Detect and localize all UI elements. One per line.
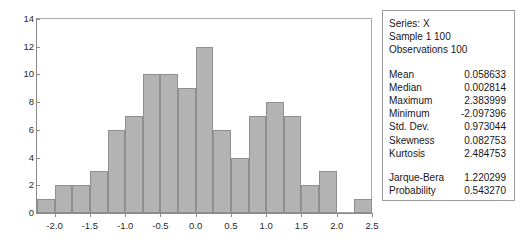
statistic-label: Probability (389, 184, 447, 197)
x-axis-tick-label: -1.0 (105, 221, 145, 231)
x-axis-tick-label: 2.0 (317, 221, 357, 231)
statistic-label: Skewness (389, 134, 447, 147)
histogram-bar (90, 171, 108, 213)
statistic-row: Minimum-2.097396 (389, 107, 510, 120)
y-axis-tick-label: 10 (4, 69, 34, 78)
x-axis-tick-mark (231, 213, 232, 217)
statistics-header-line: Sample 1 100 (389, 30, 514, 43)
y-axis-tick-label: 12 (4, 42, 34, 51)
y-axis-tick-label: 6 (4, 125, 34, 134)
statistic-value: 0.058633 (447, 68, 510, 81)
statistic-value: 1.220299 (447, 171, 510, 184)
x-axis-tick-label: 0.5 (211, 221, 251, 231)
statistic-label: Mean (389, 68, 447, 81)
histogram-bar (319, 171, 337, 213)
statistic-label: Maximum (389, 94, 447, 107)
y-axis-tick-label: 4 (4, 153, 34, 162)
statistics-header-line: Observations 100 (389, 43, 514, 56)
x-axis-tick-label: 2.5 (352, 221, 392, 231)
statistic-value: 0.082753 (447, 134, 510, 147)
statistic-label: Median (389, 81, 447, 94)
y-axis-tick-labels: 02468101214 (0, 0, 34, 245)
histogram-bar (266, 102, 284, 213)
statistic-value: 2.383999 (447, 94, 510, 107)
statistics-header-line: Series: X (389, 17, 514, 30)
statistic-value: 0.973044 (447, 120, 510, 133)
histogram-bar (55, 185, 73, 213)
statistic-label: Std. Dev. (389, 120, 447, 133)
histogram-bar (354, 199, 372, 213)
histogram-bar (196, 47, 214, 213)
histogram-bar (249, 116, 267, 213)
statistic-value: 0.543270 (447, 184, 510, 197)
statistic-row: Median0.002814 (389, 81, 510, 94)
x-axis-tick-mark (160, 213, 161, 217)
x-axis-tick-mark (301, 213, 302, 217)
statistics-panel: Series: XSample 1 100Observations 100 Me… (382, 10, 515, 201)
y-axis-tick-label: 14 (4, 14, 34, 23)
x-axis-tick-label: 1.5 (281, 221, 321, 231)
spacer (389, 57, 514, 68)
y-axis-tick-mark (36, 213, 40, 214)
normality-test-row: Jarque-Bera1.220299 (389, 171, 510, 184)
x-axis-tick-mark (55, 213, 56, 217)
histogram-bar (301, 185, 319, 213)
normality-test-row: Probability0.543270 (389, 184, 510, 197)
statistic-row: Skewness0.082753 (389, 134, 510, 147)
histogram-bar (125, 116, 143, 213)
statistics-header: Series: XSample 1 100Observations 100 (389, 17, 514, 57)
x-axis-line (36, 213, 373, 214)
statistic-row: Std. Dev.0.973044 (389, 120, 510, 133)
statistic-label: Jarque-Bera (389, 171, 447, 184)
x-axis-tick-label: 1.0 (246, 221, 286, 231)
histogram-bar (37, 199, 55, 213)
normality-test-rows: Jarque-Bera1.220299Probability0.543270 (389, 171, 514, 197)
statistic-value: 2.484753 (447, 147, 510, 160)
histogram-bar (72, 185, 90, 213)
histogram-chart: 02468101214 -2.0-1.5-1.0-0.50.00.51.01.5… (0, 0, 376, 245)
histogram-bar (231, 158, 249, 213)
x-axis-tick-label: -1.5 (70, 221, 110, 231)
x-axis-tick-mark (90, 213, 91, 217)
statistic-label: Minimum (389, 107, 447, 120)
statistics-rows: Mean0.058633Median0.002814Maximum2.38399… (389, 68, 514, 160)
y-axis-tick-label: 2 (4, 180, 34, 189)
spacer (389, 160, 514, 171)
statistic-value: 0.002814 (447, 81, 510, 94)
y-axis-tick-label: 8 (4, 97, 34, 106)
histogram-bar (108, 130, 126, 213)
histogram-bar (160, 74, 178, 213)
statistic-value: -2.097396 (447, 107, 510, 120)
statistic-label: Kurtosis (389, 147, 447, 160)
histogram-bar (213, 130, 231, 213)
statistic-row: Mean0.058633 (389, 68, 510, 81)
statistic-row: Maximum2.383999 (389, 94, 510, 107)
x-axis-tick-label: 0.0 (176, 221, 216, 231)
histogram-bar (143, 74, 161, 213)
x-axis-tick-label: -2.0 (35, 221, 75, 231)
x-axis-tick-mark (372, 213, 373, 217)
x-axis-tick-label: -0.5 (140, 221, 180, 231)
x-axis-tick-mark (266, 213, 267, 217)
statistic-row: Kurtosis2.484753 (389, 147, 510, 160)
x-axis-tick-mark (337, 213, 338, 217)
x-axis-tick-mark (125, 213, 126, 217)
histogram-bars (37, 19, 372, 213)
y-axis-tick-label: 0 (4, 208, 34, 217)
histogram-summary-view: 02468101214 -2.0-1.5-1.0-0.50.00.51.01.5… (0, 0, 523, 245)
histogram-bar (284, 116, 302, 213)
x-axis-tick-mark (196, 213, 197, 217)
histogram-bar (178, 88, 196, 213)
